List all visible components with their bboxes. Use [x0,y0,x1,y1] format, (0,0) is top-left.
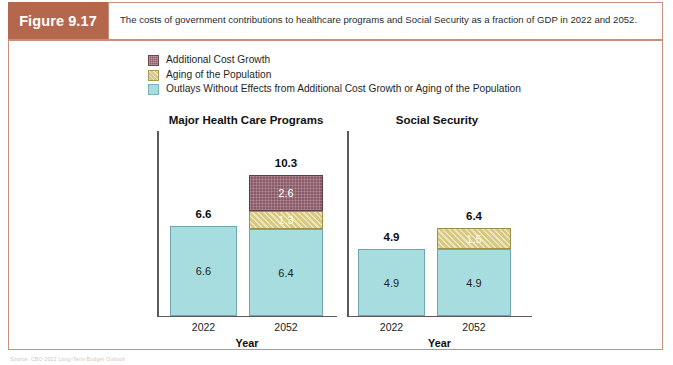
chart-title-major-health-care-programs: Major Health Care Programs [155,114,337,126]
bar-social-2052[interactable]: 1.5 4.9 [437,228,511,316]
x-axis-title-social: Year [347,337,532,349]
bar-segment-value-outlays-health-2022: 6.6 [196,265,211,277]
bar-segment-outlays-social-2052: 4.9 [437,249,511,316]
source-line: Source: CBO 2022 Long-Term Budget Outloo… [10,356,125,362]
figure-header: Figure 9.17 The costs of government cont… [8,2,663,39]
legend-label-additional-cost-growth: Additional Cost Growth [166,54,270,67]
bar-segment-value-additional-health-2052: 2.6 [278,187,293,199]
chart-legend: Additional Cost Growth Aging of the Popu… [148,54,568,98]
y-axis-line-social [347,131,349,317]
bar-segment-aging-social-2052: 1.5 [437,228,511,249]
aging-of-population-swatch-icon [148,70,159,81]
legend-item-aging-of-population: Aging of the Population [148,69,568,82]
legend-label-outlays: Outlays Without Effects from Additional … [166,83,521,96]
x-axis-title-health: Year [157,337,337,349]
bar-segment-value-outlays-health-2052: 6.4 [278,267,293,279]
bar-total-health-2022: 6.6 [170,208,237,220]
bar-segment-outlays-social-2022: 4.9 [358,249,425,316]
bar-total-social-2022: 4.9 [358,231,425,243]
x-tick-label-health-2052: 2052 [249,321,323,333]
bar-segment-value-outlays-social-2022: 4.9 [384,277,399,289]
bar-total-social-2052: 6.4 [437,210,511,222]
additional-cost-growth-swatch-icon [148,55,159,66]
figure-number-badge: Figure 9.17 [8,2,108,39]
x-tick-label-social-2052: 2052 [437,321,511,333]
figure-number-label: Figure 9.17 [19,13,97,29]
y-axis-line-health [157,131,159,317]
bar-segment-outlays-health-2052: 6.4 [249,229,323,316]
bar-total-health-2052: 10.3 [249,157,323,169]
figure-caption-text: The costs of government contributions to… [120,14,637,26]
figure-caption-container: The costs of government contributions to… [108,2,663,39]
bar-social-2022[interactable]: 4.9 [358,249,425,316]
bar-health-2052[interactable]: 2.6 1.3 6.4 [249,175,323,316]
header-divider [8,39,663,41]
outlays-swatch-icon [148,84,159,95]
legend-label-aging-of-population: Aging of the Population [166,69,271,82]
legend-item-additional-cost-growth: Additional Cost Growth [148,54,568,67]
x-tick-label-social-2022: 2022 [358,321,425,333]
x-tick-label-health-2022: 2022 [170,321,237,333]
bar-segment-value-aging-social-2052: 1.5 [466,233,481,245]
chart-title-social-security: Social Security [347,114,527,126]
bar-segment-outlays-health-2022: 6.6 [170,226,237,316]
bar-segment-additional-cost-growth-health-2052: 2.6 [249,175,323,211]
bar-segment-value-aging-health-2052: 1.3 [278,214,293,226]
legend-item-outlays: Outlays Without Effects from Additional … [148,83,568,96]
bar-segment-aging-health-2052: 1.3 [249,211,323,229]
bar-health-2022[interactable]: 6.6 [170,226,237,316]
bar-segment-value-outlays-social-2052: 4.9 [466,277,481,289]
